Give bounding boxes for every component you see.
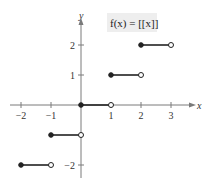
closed-endpoint-dot [139, 43, 144, 48]
y-axis-label: y [78, 10, 84, 21]
chart-canvas: f(x) = [[x]] −2−1123−212 x y [0, 0, 212, 184]
open-endpoint-circle [169, 43, 174, 48]
closed-endpoint-dot [19, 163, 24, 168]
x-tick-label: 2 [139, 110, 144, 121]
open-endpoint-circle [49, 163, 54, 168]
y-tick-label: 2 [70, 40, 75, 51]
closed-endpoint-dot [109, 73, 114, 78]
x-axis-label: x [196, 100, 202, 111]
closed-endpoint-dot [79, 103, 84, 108]
y-tick-label: −2 [64, 160, 75, 171]
open-endpoint-circle [139, 73, 144, 78]
axes [10, 18, 196, 178]
open-endpoint-circle [109, 103, 114, 108]
x-axis-arrow-icon [189, 103, 196, 108]
y-tick-label: 1 [70, 70, 75, 81]
x-tick-label: 1 [109, 110, 114, 121]
x-tick-label: −2 [16, 110, 27, 121]
x-tick-label: −1 [46, 110, 57, 121]
closed-endpoint-dot [49, 133, 54, 138]
step-function-chart: f(x) = [[x]] −2−1123−212 x y [0, 0, 212, 184]
open-endpoint-circle [79, 133, 84, 138]
function-label: f(x) = [[x]] [110, 17, 158, 30]
x-tick-label: 3 [169, 110, 174, 121]
